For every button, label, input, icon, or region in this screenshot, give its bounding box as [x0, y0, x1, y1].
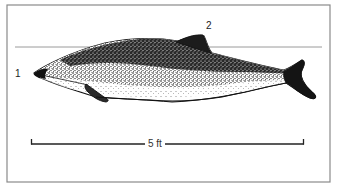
- scale-bar-label: 5 ft: [145, 139, 165, 149]
- scale-bar: [31, 139, 304, 145]
- callout-label-1: 1: [15, 69, 21, 79]
- porpoise-body: [34, 35, 316, 102]
- figure-canvas: 1 2 5 ft: [0, 0, 338, 189]
- porpoise-illustration: [0, 0, 338, 189]
- callout-label-2: 2: [206, 21, 212, 31]
